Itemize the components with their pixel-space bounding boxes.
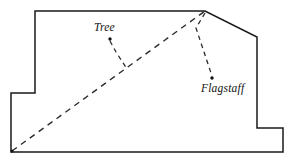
flagstaff-label: Flagstaff xyxy=(201,82,244,94)
flagstaff-marker-dot xyxy=(210,76,213,79)
corner-origin-dot xyxy=(11,150,14,153)
tree-label: Tree xyxy=(94,21,115,33)
tree-marker-dot xyxy=(108,37,111,40)
figure-canvas xyxy=(0,0,294,163)
map-figure: Tree Flagstaff xyxy=(0,0,294,163)
